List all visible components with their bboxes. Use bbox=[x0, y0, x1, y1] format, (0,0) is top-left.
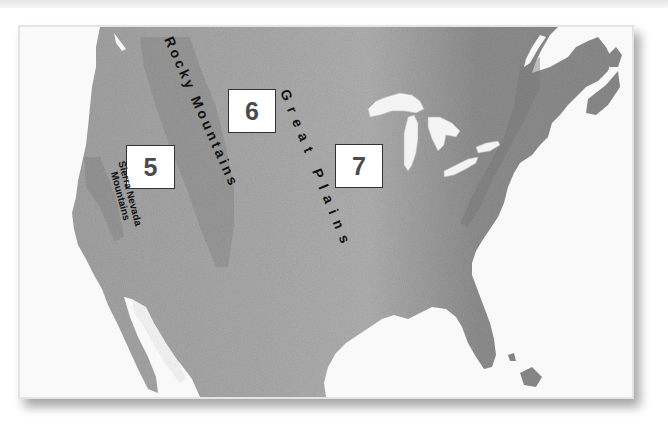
region-5-number: 5 bbox=[144, 153, 158, 182]
map-frame: 5 6 7 Rocky Mountains Great Plains Sierr… bbox=[18, 25, 634, 399]
region-7-box: 7 bbox=[335, 144, 383, 188]
region-7-number: 7 bbox=[352, 152, 366, 181]
top-strip bbox=[0, 0, 668, 8]
region-5-box: 5 bbox=[126, 145, 175, 189]
region-6-number: 6 bbox=[245, 97, 259, 126]
region-6-box: 6 bbox=[228, 89, 276, 133]
land-mass bbox=[72, 27, 622, 397]
